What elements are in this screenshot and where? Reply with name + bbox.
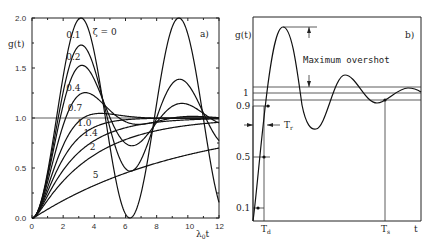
arrow-right-icon: [247, 123, 253, 127]
curve-label: 0.1: [66, 30, 80, 40]
y-tick-label: 0.0: [15, 214, 27, 223]
panel-b-ylabel: g(t): [235, 30, 251, 40]
point-0-9: [266, 104, 269, 107]
curve-label: 0.2: [66, 52, 80, 62]
panel-b-xlabel: t: [414, 224, 418, 234]
x-tick-label: 10: [185, 222, 194, 231]
curve-label: 1.0: [77, 118, 92, 128]
x-tick-label: 2: [61, 222, 66, 231]
curve-label: 1.4: [83, 128, 98, 138]
panel-a-label: a): [200, 29, 209, 39]
curve-zeta-5: [32, 148, 219, 218]
curve-label: 0.7: [68, 103, 83, 113]
tr-label: Tr: [284, 120, 293, 131]
point-settling: [383, 98, 386, 101]
td-label: Td: [261, 224, 271, 235]
panel-b-performance-chart: Maximum overshot g(t) b) 1 0.9 0.5 0.1 T…: [235, 17, 421, 235]
x-tick-label: 6: [123, 222, 128, 231]
panel-a-xlabel: λ0t: [196, 229, 210, 240]
y-tick-label: 2.0: [15, 14, 27, 23]
y-label-0-9: 0.9: [236, 101, 251, 111]
curve-label: 5: [93, 170, 99, 180]
curve-label: ζ = 0: [93, 27, 117, 37]
panel-b-frame: [253, 17, 421, 221]
arrow-down-icon: [307, 81, 311, 87]
x-tick-label: 12: [215, 222, 224, 231]
ts-label: Ts: [381, 224, 390, 235]
curve-zeta-0-1: [32, 45, 219, 218]
x-tick-label: 0: [30, 222, 35, 231]
panel-b-label: b): [405, 30, 414, 40]
y-label-0-1: 0.1: [236, 203, 250, 213]
curve-label: 0.4: [66, 83, 81, 93]
y-label-0-5: 0.5: [236, 152, 251, 162]
arrow-up-icon: [307, 27, 311, 33]
curve-label: 2: [90, 142, 96, 152]
y-tick-label: 0.5: [15, 164, 27, 173]
x-tick-label: 4: [92, 222, 97, 231]
point-0-1: [256, 206, 259, 209]
y-tick-label: 1.0: [15, 114, 27, 123]
point-0-5: [262, 155, 265, 158]
y-tick-label: 1.5: [15, 64, 27, 73]
x-tick-label: 8: [154, 222, 159, 231]
y-label-1: 1: [243, 88, 249, 98]
arrow-left-icon: [267, 123, 273, 127]
panel-a-ylabel: g(t): [8, 39, 24, 49]
figure: 0246810120.00.51.01.52.0 ζ = 00.10.20.40…: [0, 0, 432, 248]
panel-a-step-response-chart: 0246810120.00.51.01.52.0 ζ = 00.10.20.40…: [8, 14, 224, 240]
curve-zeta-0-4: [32, 93, 219, 218]
overshoot-label: Maximum overshot: [303, 55, 390, 65]
